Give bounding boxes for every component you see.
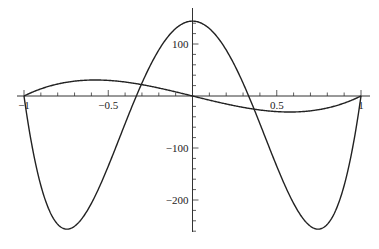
tick-labels: −1−0.50.51100−100−200 (18, 38, 364, 206)
x-tick-label: −0.5 (98, 99, 118, 111)
x-tick-label: −1 (18, 99, 30, 111)
y-tick-label: −100 (166, 142, 189, 154)
line-chart: −1−0.50.51100−100−200 (0, 0, 379, 249)
x-tick-label: 0.5 (270, 99, 284, 111)
axes (17, 8, 370, 232)
x-tick-label: 1 (358, 99, 364, 111)
y-tick-label: −200 (166, 194, 189, 206)
y-tick-label: 100 (172, 38, 189, 50)
